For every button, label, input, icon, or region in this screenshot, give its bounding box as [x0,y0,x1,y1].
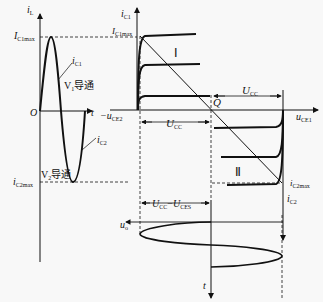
ic2-label: iC2 [97,134,107,146]
origin-label: O [30,107,37,118]
ucc-right-label: UCC [242,84,258,97]
ic1-label: iC1 [72,55,82,67]
region-1-label: Ⅰ [174,46,178,60]
v1-curve-top [138,34,196,110]
ic1-leader-line [58,63,72,80]
t-down-label: t [203,280,206,291]
left-t-label: t [91,107,94,118]
v1-conduct-label: V1导通 [64,80,94,92]
ucc-left-label: UCC [166,117,182,130]
sine-current-wave [40,37,85,182]
v1-curve-mid [138,64,200,110]
region-2-label: Ⅱ [235,165,241,179]
uce1-label: uCE1 [296,111,312,123]
push-pull-amplifier-diagram: iL IC1max iC1 V1导通 O t iC2 V2导通 iC2max [0,0,323,302]
v2-curve-high [214,110,283,128]
left-waveform-plot: iL IC1max iC1 V1导通 O t iC2 V2导通 iC2max [13,4,130,262]
v2-conduct-label: V2导通 [41,169,71,181]
v2-curve-mid [221,110,283,157]
swing-label: UCC−UCES [152,198,191,210]
ic1max-label: IC1max [13,30,35,42]
ic2max-right-label: iC2max [290,178,310,189]
ic2max-label: iC2max [13,176,33,188]
uo-label: uo [120,219,128,231]
v1-curve-low [138,96,210,110]
ic1max-right-label: IC1max [111,26,132,37]
left-y-axis-label: iL [27,4,34,16]
ic2-axis-label: iC2 [287,193,297,205]
q-point-label: Q [213,96,221,108]
diagram-svg: iL IC1max iC1 V1导通 O t iC2 V2导通 iC2max [0,0,323,302]
uce2-label: −uCE2 [100,110,122,122]
ic1-axis-label: iC1 [121,8,131,20]
right-characteristic-plot: iC1 IC1max Ⅰ UCC Q −uCE2 UCC uCE1 Ⅱ iC2m… [100,8,318,300]
ic2-leader-line [82,138,96,150]
